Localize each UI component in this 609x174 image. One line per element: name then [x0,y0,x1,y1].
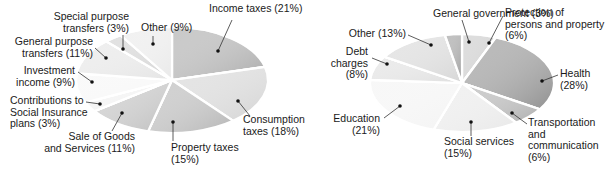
slice-label-text: Contributions toSocial Insuranceplans (3… [10,94,88,129]
slice-label-text: Social services(15%) [444,135,514,159]
slice-label-text: Investmentincome (9%) [16,64,75,88]
leader-dot [121,47,125,51]
leader-dot [171,120,175,124]
leader-dot [469,120,473,124]
leader-dot [151,42,155,46]
leader-dot [398,104,402,108]
slice-label-text: Other (13%) [349,27,406,39]
leader-dot [104,56,108,60]
slice-label-text: Education(21%) [333,112,380,136]
slice-label-text: Debtcharges(8%) [331,45,368,80]
leader-dot [540,79,544,83]
leader-dot [429,43,433,47]
slice-label-text: General purposetransfers (11%) [15,35,93,59]
leader-dot [120,111,124,115]
leader-dot [385,62,389,66]
leader-dot [90,80,94,84]
slice-label-text: Special purposetransfers (3%) [54,10,129,34]
revenue-pie-chart: Income taxes (21%)Consumptiontaxes (18%)… [10,2,305,165]
expenditure-pie-chart: Protection ofpersons and property(6%)Hea… [331,6,605,163]
slice-label-text: Transportationandcommunication(6%) [528,116,599,163]
leader-dot [510,111,514,115]
pie-charts: Income taxes (21%)Consumptiontaxes (18%)… [0,0,609,174]
slice-label-text: Health(28%) [560,67,591,91]
leader-dot [467,40,471,44]
slice-label-text: Other (9%) [141,21,192,33]
slice-label-text: Property taxes(15%) [171,141,239,165]
leader-dot [487,41,491,45]
slice-label-text: General government (3%) [433,7,554,19]
slice-label-text: Sale of Goodsand Services (11%) [44,130,135,154]
slice-label-text: Consumptiontaxes (18%) [243,113,305,137]
slice-label-text: Income taxes (21%) [209,2,302,14]
leader-dot [98,102,102,106]
leader-dot [236,99,240,103]
leader-dot [216,49,220,53]
